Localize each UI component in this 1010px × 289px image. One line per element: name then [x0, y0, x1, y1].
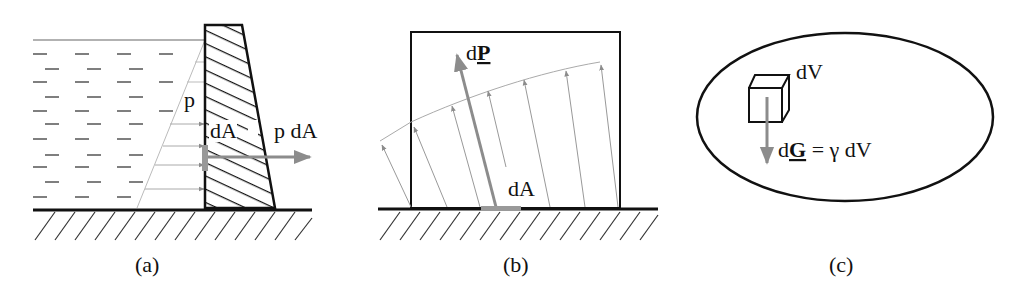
- panel-b: dP dA (b): [378, 32, 658, 277]
- figure-canvas: p dA p dA (a): [0, 0, 1010, 289]
- label-dV: dV: [796, 59, 823, 84]
- water-body: [33, 40, 205, 197]
- ground-a: [33, 210, 312, 240]
- caption-b: (b): [503, 252, 529, 277]
- label-dA-b: dA: [508, 176, 535, 201]
- dam: [190, 20, 290, 210]
- label-p-dA: p dA: [274, 118, 318, 143]
- label-dA-a: dA: [210, 118, 237, 143]
- caption-c: (c): [829, 252, 853, 277]
- pressure-distribution: [137, 40, 205, 208]
- force-vector-dP: [457, 55, 496, 207]
- label-dG-equation: dG = γ dV: [778, 137, 872, 162]
- panel-a: p dA p dA (a): [33, 20, 318, 277]
- panel-c: dV dG = γ dV (c): [697, 33, 993, 277]
- body-ellipse: [697, 33, 993, 201]
- caption-a: (a): [135, 252, 159, 277]
- label-dP: dP: [466, 40, 490, 65]
- ground-b: [378, 206, 658, 240]
- volume-element-cube: [749, 75, 789, 122]
- label-p: p: [184, 87, 195, 112]
